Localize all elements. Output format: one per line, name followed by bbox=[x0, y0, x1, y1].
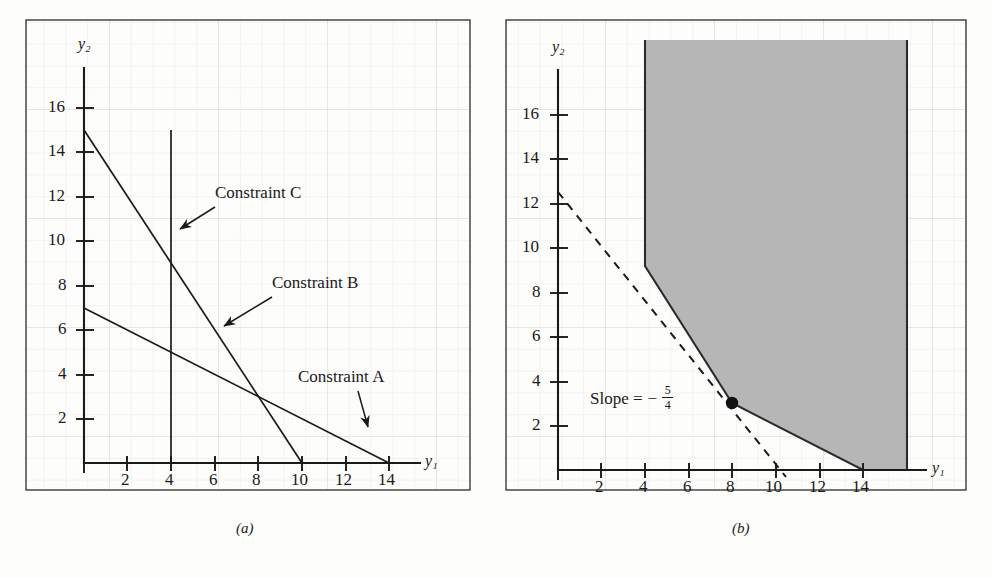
x-tick-label: 6 bbox=[209, 470, 218, 490]
x-tick-label: 14 bbox=[852, 477, 869, 497]
y-tick-label: 8 bbox=[58, 275, 67, 295]
slope-minus-sign: − bbox=[648, 389, 658, 409]
x-tick-label: 14 bbox=[378, 470, 395, 490]
optimal-solution-point bbox=[726, 397, 738, 409]
y-tick-label: 2 bbox=[532, 415, 541, 435]
y-tick-label: 14 bbox=[48, 141, 65, 161]
x-tick-label: 8 bbox=[252, 470, 261, 490]
constraint-c-label: Constraint C bbox=[215, 183, 301, 203]
y-tick-label: 10 bbox=[48, 230, 65, 250]
y-tick-label: 16 bbox=[522, 104, 539, 124]
figure-root: 2 4 6 8 10 12 14 2 4 6 8 10 12 14 16 y₂ … bbox=[0, 0, 992, 578]
x-tick-label: 4 bbox=[639, 477, 648, 497]
axis-label-y2-b: y₂ bbox=[552, 38, 565, 56]
slope-label-text: Slope = bbox=[590, 389, 643, 409]
slope-fraction: 5 4 bbox=[662, 384, 673, 411]
x-tick-label: 8 bbox=[726, 477, 735, 497]
x-tick-label: 10 bbox=[291, 470, 308, 490]
y-tick-label: 14 bbox=[522, 148, 539, 168]
slope-label: Slope = − 5 4 bbox=[590, 385, 673, 412]
slope-numerator: 5 bbox=[663, 384, 673, 397]
panel-b-caption: (b) bbox=[732, 520, 750, 537]
x-tick-label: 6 bbox=[683, 477, 692, 497]
y-tick-label: 6 bbox=[58, 319, 67, 339]
axis-label-y1-a: y₁ bbox=[425, 452, 438, 470]
panel-a: 2 4 6 8 10 12 14 2 4 6 8 10 12 14 16 y₂ … bbox=[0, 0, 496, 578]
y-tick-label: 2 bbox=[58, 408, 67, 428]
constraint-a-label: Constraint A bbox=[298, 367, 384, 387]
panel-b-svg bbox=[496, 0, 992, 578]
x-tick-label: 10 bbox=[765, 477, 782, 497]
y-tick-label: 12 bbox=[522, 193, 539, 213]
axis-label-y1-b: y₁ bbox=[932, 459, 945, 477]
y-tick-label: 8 bbox=[532, 282, 541, 302]
panel-a-caption: (a) bbox=[236, 520, 254, 537]
y-tick-label: 4 bbox=[532, 371, 541, 391]
axis-label-y2-a: y₂ bbox=[78, 35, 91, 53]
y-tick-label: 12 bbox=[48, 186, 65, 206]
x-tick-label: 2 bbox=[595, 477, 604, 497]
x-tick-label: 12 bbox=[335, 470, 352, 490]
y-tick-label: 16 bbox=[48, 97, 65, 117]
y-tick-label: 4 bbox=[58, 364, 67, 384]
x-tick-label: 2 bbox=[121, 470, 130, 490]
panel-a-svg bbox=[0, 0, 496, 578]
slope-denominator: 4 bbox=[663, 398, 673, 411]
y-tick-label: 6 bbox=[532, 326, 541, 346]
x-tick-label: 12 bbox=[809, 477, 826, 497]
panel-b: 2 4 6 8 10 12 14 2 4 6 8 10 12 14 16 y₂ … bbox=[496, 0, 992, 578]
constraint-b-label: Constraint B bbox=[272, 273, 358, 293]
y-tick-label: 10 bbox=[522, 237, 539, 257]
x-tick-label: 4 bbox=[165, 470, 174, 490]
